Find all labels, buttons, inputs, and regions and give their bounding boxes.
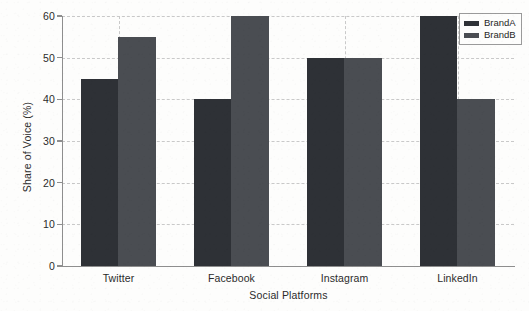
chart-legend[interactable]: BrandABrandB [459,13,522,45]
y-tick-label-40: 40 [43,93,55,105]
x-tick-label-facebook: Facebook [208,272,255,284]
y-tick-label-20: 20 [43,177,55,189]
bar-chart-figure: 0102030405060 TwitterFacebookInstagramLi… [0,0,529,311]
x-tick-label-instagram: Instagram [321,272,369,284]
x-tick-label-linkedin: LinkedIn [437,272,478,284]
bar-brandb-linkedin[interactable] [457,99,494,266]
legend-label-brandb: BrandB [484,29,516,41]
y-tick-mark-30 [57,140,62,141]
legend-swatch-icon-branda [464,21,479,26]
bar-brandb-twitter[interactable] [118,37,155,266]
y-tick-label-10: 10 [43,218,55,230]
y-tick-mark-10 [57,224,62,225]
bar-branda-linkedin[interactable] [420,16,457,266]
y-tick-label-50: 50 [43,52,55,64]
y-tick-mark-50 [57,57,62,58]
legend-label-branda: BrandA [484,17,516,29]
y-axis-title: Share of Voice (%) [21,67,33,227]
bar-group-facebook [194,16,269,266]
y-tick-label-0: 0 [49,260,55,272]
x-axis-title: Social Platforms [62,289,515,301]
y-tick-mark-20 [57,182,62,183]
y-tick-mark-0 [57,265,62,266]
bar-brandb-facebook[interactable] [231,16,268,266]
y-tick-label-30: 30 [43,135,55,147]
y-axis-line [62,16,63,267]
bar-brandb-instagram[interactable] [344,58,381,266]
bar-branda-facebook[interactable] [194,99,231,266]
legend-item-brandb[interactable]: BrandB [464,29,516,41]
y-tick-label-60: 60 [43,10,55,22]
legend-item-branda[interactable]: BrandA [464,17,516,29]
x-tick-label-twitter: Twitter [103,272,135,284]
bar-group-twitter [81,16,156,266]
legend-swatch-icon-brandb [464,33,479,38]
plot-area: 0102030405060 [62,16,514,266]
bar-branda-instagram[interactable] [307,58,344,266]
y-tick-mark-40 [57,99,62,100]
y-tick-mark-60 [57,15,62,16]
x-axis-line [62,266,515,267]
bar-branda-twitter[interactable] [81,79,118,267]
